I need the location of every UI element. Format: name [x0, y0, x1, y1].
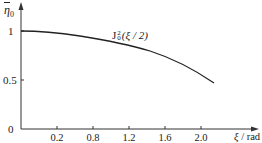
- y-axis-label: η0: [4, 4, 14, 19]
- y-tick-label-0: 0: [8, 123, 14, 135]
- curve-fn: J: [112, 29, 116, 41]
- curve-annotation: J20(ξ / 2): [112, 30, 148, 42]
- x-tick-label: 0.2: [50, 132, 63, 143]
- curve-argument: (ξ / 2): [122, 29, 148, 41]
- y-axis-subscript: 0: [10, 10, 14, 19]
- y-tick-label-05: 0.5: [3, 74, 17, 86]
- curve-subscript: 0: [117, 36, 121, 42]
- x-tick-label: 1.2: [122, 132, 135, 143]
- x-axis-label: ξ / rad: [234, 132, 260, 143]
- y-axis-arrow-icon: [19, 2, 24, 10]
- y-tick-label-1: 1: [8, 25, 14, 37]
- x-tick-label: 1.6: [158, 132, 171, 143]
- x-axis-unit: / rad: [239, 131, 261, 142]
- x-tick-label: 2.0: [194, 132, 207, 143]
- x-tick-label: 0.8: [86, 132, 99, 143]
- chart-canvas: [0, 0, 262, 143]
